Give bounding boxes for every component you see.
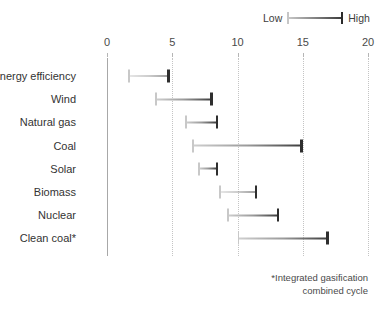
- legend-label-low: Low: [263, 13, 282, 24]
- range-bar: [192, 139, 303, 152]
- range-bar-line: [239, 238, 328, 240]
- range-bar-cap-low: [227, 209, 229, 222]
- x-tick-label-20: 20: [362, 36, 374, 48]
- gridline-5: [172, 58, 174, 256]
- range-bar: [238, 232, 329, 245]
- chart-container: Low High 05101520 Energy efficiencyWindN…: [0, 0, 390, 309]
- legend-cap-low-icon: [287, 12, 289, 24]
- category-label-0: Energy efficiency: [0, 70, 76, 82]
- range-bar-cap-high: [326, 232, 328, 245]
- category-label-1: Wind: [51, 93, 76, 105]
- range-bar-cap-high: [216, 162, 218, 175]
- range-bar-cap-high: [210, 93, 212, 106]
- legend-gradient-bar: [286, 11, 344, 25]
- range-bar: [155, 93, 212, 106]
- footnote-line-1: *Integrated gasification: [188, 272, 368, 285]
- range-bar-line: [193, 145, 302, 147]
- x-tick-label-0: 0: [104, 36, 110, 48]
- range-bar-line: [156, 98, 211, 100]
- legend-label-high: High: [348, 13, 370, 24]
- category-label-4: Solar: [50, 163, 76, 175]
- range-bar: [128, 70, 170, 83]
- range-bar-line: [199, 168, 217, 170]
- range-bar-line: [129, 75, 169, 77]
- range-bar-cap-low: [192, 139, 194, 152]
- range-bar: [198, 162, 218, 175]
- footnote: *Integrated gasification combined cycle: [188, 272, 368, 298]
- tick-mark-0: [107, 53, 108, 57]
- chart-legend: Low High: [263, 9, 370, 27]
- range-bar-cap-low: [185, 116, 187, 129]
- range-bar-cap-high: [255, 186, 257, 199]
- tick-mark-10: [238, 53, 239, 57]
- gridline-0: [107, 58, 109, 256]
- range-bar-cap-high: [167, 70, 169, 83]
- tick-mark-20: [368, 53, 369, 57]
- range-bar-cap-low: [128, 70, 130, 83]
- range-bar-line: [228, 214, 278, 216]
- legend-gradient-line: [288, 17, 342, 19]
- category-label-2: Natural gas: [20, 116, 76, 128]
- range-bar-cap-high: [216, 116, 218, 129]
- range-bar-cap-low: [219, 186, 221, 199]
- range-bar-cap-high: [277, 209, 279, 222]
- range-bar-cap-low: [155, 93, 157, 106]
- gridline-10: [238, 58, 240, 256]
- legend-cap-high-icon: [341, 12, 343, 24]
- x-tick-label-15: 15: [297, 36, 309, 48]
- range-bar: [185, 116, 218, 129]
- range-bar-line: [186, 122, 217, 124]
- range-bar-cap-low: [238, 232, 240, 245]
- range-bar-cap-low: [198, 162, 200, 175]
- range-bar: [219, 186, 257, 199]
- gridline-20: [368, 58, 370, 256]
- category-label-6: Nuclear: [38, 209, 76, 221]
- gridline-15: [303, 58, 305, 256]
- tick-mark-15: [303, 53, 304, 57]
- x-tick-label-10: 10: [231, 36, 243, 48]
- range-bar: [227, 209, 279, 222]
- x-tick-label-5: 5: [169, 36, 175, 48]
- footnote-line-2: combined cycle: [188, 285, 368, 298]
- category-label-7: Clean coal*: [20, 232, 76, 244]
- category-label-3: Coal: [53, 140, 76, 152]
- range-bar-cap-high: [300, 139, 302, 152]
- tick-mark-5: [172, 53, 173, 57]
- category-label-5: Biomass: [34, 186, 76, 198]
- plot-area: 05101520 Energy efficiencyWindNatural ga…: [107, 58, 368, 256]
- range-bar-line: [220, 191, 256, 193]
